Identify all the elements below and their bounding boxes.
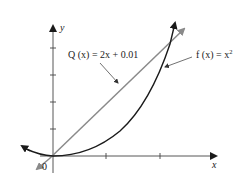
f-label: f (x) = x2 [196,48,232,61]
chart-canvas: y x 0 Q (x) = 2x + 0.01 f (x) = x2 [0,0,242,181]
f-curve-left [22,146,30,151]
y-axis-label: y [59,22,65,33]
f-pointer [165,57,192,67]
q-pointer [100,63,118,83]
origin-label: 0 [42,161,47,172]
x-axis-label: x [211,159,217,170]
q-label: Q (x) = 2x + 0.01 [68,49,138,61]
f-curve [24,23,175,156]
